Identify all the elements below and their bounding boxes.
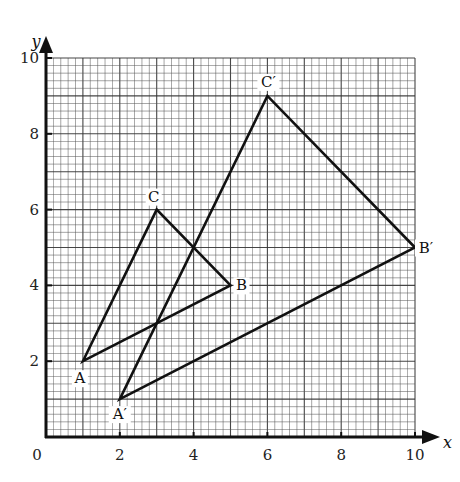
vertex-label-c: C: [148, 188, 159, 206]
x-tick-label: 2: [115, 446, 125, 464]
vertex-label-a: A: [73, 369, 85, 387]
origin-label: 0: [32, 446, 42, 464]
x-tick-label: 4: [189, 446, 199, 464]
graph-paper-grid: [46, 58, 415, 437]
x-axis-arrow-icon: [422, 430, 440, 444]
x-axis-label: x: [443, 433, 452, 452]
y-tick-label: 10: [20, 49, 39, 67]
y-tick-label: 4: [29, 276, 39, 294]
x-tick-label: 8: [336, 446, 346, 464]
x-tick-label: 10: [405, 446, 424, 464]
y-tick-label: 2: [29, 352, 39, 370]
vertex-label-b: B: [236, 276, 247, 294]
x-tick-label: 6: [263, 446, 273, 464]
vertex-label-a-prime: A′: [112, 405, 128, 423]
y-axis-label: y: [30, 32, 41, 51]
vertex-label-b-prime: B′: [419, 239, 434, 257]
vertex-label-c-prime: C′: [261, 73, 276, 91]
coordinate-plane: 2468102468100yxABCA′B′C′: [0, 0, 460, 482]
y-tick-label: 8: [29, 125, 39, 143]
y-tick-label: 6: [29, 201, 39, 219]
y-axis-arrow-icon: [39, 36, 53, 53]
